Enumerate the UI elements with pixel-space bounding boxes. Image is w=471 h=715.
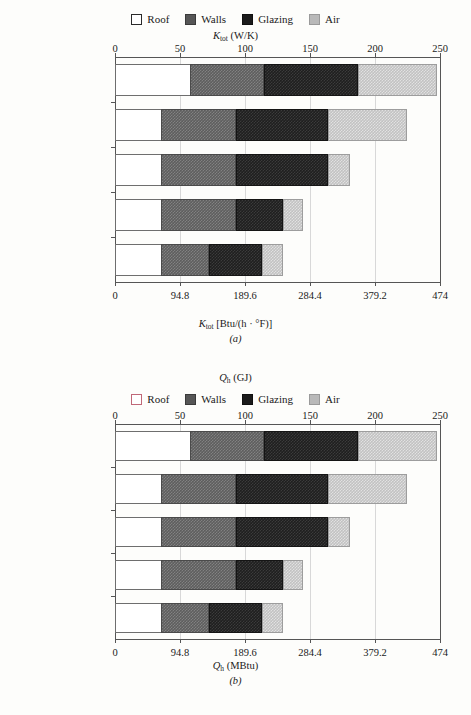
bar-segment-air[interactable]: [328, 154, 350, 186]
bottom-axis-line: [115, 282, 440, 283]
bar-3[interactable]: [115, 517, 350, 547]
category-tick: [111, 237, 116, 238]
bar-segment-air[interactable]: [358, 431, 437, 461]
legend-label-air-b: Air: [325, 393, 340, 405]
category-tick: [111, 553, 116, 554]
legend-label-roof-b: Roof: [147, 393, 169, 405]
bottom-tick-label: 189.6: [233, 290, 257, 301]
bar-segment-air[interactable]: [358, 64, 437, 96]
bar-segment-air[interactable]: [328, 474, 407, 504]
legend-item-roof[interactable]: Roof: [131, 13, 169, 25]
walls-swatch-icon: [185, 14, 196, 25]
bar-segment-glazing[interactable]: [264, 64, 358, 96]
bar-segment-roof[interactable]: [115, 64, 190, 96]
bar-segment-air[interactable]: [328, 109, 407, 141]
legend-item-air-b[interactable]: Air: [309, 393, 340, 405]
bottom-tick-label: 474: [432, 647, 448, 658]
bar-segment-walls[interactable]: [161, 517, 236, 547]
axis-tick: [375, 420, 376, 424]
bar-segment-roof[interactable]: [115, 517, 161, 547]
bar-segment-roof[interactable]: [115, 244, 161, 276]
air-swatch-icon: [309, 394, 320, 405]
right-axis-line: [440, 424, 441, 639]
category-tick: [111, 192, 116, 193]
bar-segment-walls[interactable]: [161, 109, 236, 141]
legend-label-walls-b: Walls: [201, 393, 226, 405]
bar-segment-air[interactable]: [262, 603, 283, 633]
bar-segment-walls[interactable]: [161, 199, 236, 231]
top-axis-symbol-a: K: [213, 30, 220, 41]
bar-segment-walls[interactable]: [161, 560, 236, 590]
bar-segment-walls[interactable]: [161, 474, 236, 504]
bar-segment-glazing[interactable]: [236, 474, 328, 504]
axis-tick: [375, 282, 376, 286]
top-axis-line: [115, 57, 440, 58]
bar-segment-roof[interactable]: [115, 603, 161, 633]
bar-segment-walls[interactable]: [190, 64, 264, 96]
axis-tick: [245, 282, 246, 286]
bar-segment-walls[interactable]: [161, 154, 236, 186]
axis-tick: [440, 282, 441, 286]
bar-segment-air[interactable]: [262, 244, 283, 276]
bottom-axis-line: [115, 639, 440, 640]
bar-segment-roof[interactable]: [115, 199, 161, 231]
bar-segment-air[interactable]: [283, 199, 304, 231]
bar-1[interactable]: [115, 431, 437, 461]
bar-segment-air[interactable]: [328, 517, 350, 547]
bar-segment-glazing[interactable]: [236, 560, 283, 590]
bar-segment-walls[interactable]: [190, 431, 264, 461]
panel-b-heading: Qh (GJ): [0, 370, 471, 386]
axis-tick: [375, 639, 376, 643]
bottom-tick-label: 0: [112, 647, 117, 658]
top-axis-unit-a: (W/K): [231, 30, 258, 41]
bar-4[interactable]: [115, 199, 303, 231]
bottom-tick-label: 379.2: [363, 290, 387, 301]
legend-item-air[interactable]: Air: [309, 13, 340, 25]
axis-tick: [115, 282, 116, 286]
bar-segment-roof[interactable]: [115, 154, 161, 186]
bar-5[interactable]: [115, 244, 283, 276]
axis-tick: [180, 282, 181, 286]
legend-label-glazing-b: Glazing: [258, 393, 293, 405]
legend-item-walls-b[interactable]: Walls: [185, 393, 226, 405]
category-tick: [111, 596, 116, 597]
bar-2[interactable]: [115, 109, 407, 141]
bar-segment-roof[interactable]: [115, 560, 161, 590]
bar-segment-glazing[interactable]: [236, 199, 283, 231]
category-tick: [111, 510, 116, 511]
bar-5[interactable]: [115, 603, 283, 633]
panel-a: Roof Walls Glazing Air Ktot (W/K) 050100…: [0, 10, 471, 370]
axis-tick: [375, 53, 376, 57]
plot-area-b: 050100150200250ReferenceAdd roof insulat…: [0, 410, 471, 680]
bar-segment-glazing[interactable]: [264, 431, 358, 461]
walls-swatch-icon: [185, 394, 196, 405]
bar-segment-roof[interactable]: [115, 431, 190, 461]
bar-segment-glazing[interactable]: [236, 154, 328, 186]
bar-1[interactable]: [115, 64, 437, 96]
legend-item-walls[interactable]: Walls: [185, 13, 226, 25]
bar-segment-walls[interactable]: [161, 244, 209, 276]
legend-item-glazing-b[interactable]: Glazing: [242, 393, 293, 405]
bar-segment-walls[interactable]: [161, 603, 209, 633]
bar-3[interactable]: [115, 154, 350, 186]
bar-segment-roof[interactable]: [115, 474, 161, 504]
bottom-tick-label: 94.8: [171, 647, 189, 658]
top-axis-title-a: Ktot (W/K): [0, 28, 471, 43]
bar-4[interactable]: [115, 560, 303, 590]
bar-segment-roof[interactable]: [115, 109, 161, 141]
bar-segment-glazing[interactable]: [236, 517, 328, 547]
bar-segment-air[interactable]: [283, 560, 304, 590]
legend-label-air: Air: [325, 13, 340, 25]
bar-segment-glazing[interactable]: [209, 603, 262, 633]
glazing-swatch-icon: [242, 394, 253, 405]
bar-segment-glazing[interactable]: [209, 244, 262, 276]
category-tick: [111, 147, 116, 148]
bottom-tick-label: 0: [112, 290, 117, 301]
axis-tick: [245, 639, 246, 643]
bar-2[interactable]: [115, 474, 407, 504]
legend-item-roof-b[interactable]: Roof: [131, 393, 169, 405]
axis-tick: [245, 53, 246, 57]
legend-item-glazing[interactable]: Glazing: [242, 13, 293, 25]
bar-segment-glazing[interactable]: [236, 109, 328, 141]
panel-b: Qh (GJ) Roof Walls Glazing Air 050100150…: [0, 370, 471, 715]
